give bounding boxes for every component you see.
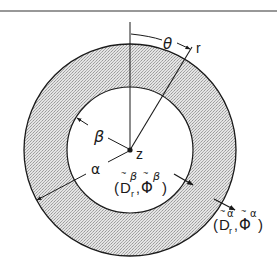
inner-Phi-sup: β — [152, 170, 160, 183]
inner-D-sub: r — [131, 189, 134, 199]
outer-boundary-fields: ( ~ D r α , ~ Φ α ) — [213, 206, 263, 236]
theta-arc — [131, 34, 162, 40]
theta-label: θ — [163, 35, 172, 53]
theta-arrow — [177, 43, 190, 49]
svg-text:(: ( — [213, 216, 218, 233]
outer-D-tilde: ~ — [220, 206, 225, 216]
alpha-label: α — [91, 161, 100, 177]
svg-text:,: , — [136, 180, 140, 196]
inner-D-tilde: ~ — [121, 168, 126, 178]
outer-D-sup: α — [227, 208, 234, 219]
r-label: r — [196, 40, 201, 56]
svg-text:): ) — [162, 179, 167, 196]
svg-text:,: , — [234, 217, 238, 233]
z-label: z — [136, 146, 143, 162]
outer-D-sub: r — [229, 226, 232, 236]
annulus-diagram: θ r z β α ( ~ D r β , ~ Φ β ) ( ~ D r α … — [0, 0, 277, 265]
outer-Phi-sup: α — [250, 208, 257, 219]
svg-text:): ) — [258, 216, 263, 233]
inner-Phi: Φ — [141, 179, 153, 197]
beta-label: β — [93, 127, 104, 146]
svg-text:(: ( — [114, 179, 119, 196]
inner-Phi-tilde: ~ — [143, 168, 148, 178]
outer-Phi-tilde: ~ — [241, 206, 246, 216]
